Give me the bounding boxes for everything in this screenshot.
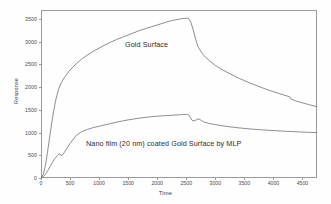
annotation-nano-film: Nano film (20 nm) coated Gold Surface by… (86, 139, 241, 148)
y-tick-mark (39, 87, 41, 88)
x-tick-label: 4000 (268, 180, 280, 186)
y-tick-mark (39, 155, 41, 156)
x-tick-mark (302, 178, 303, 180)
x-tick-label: 3000 (210, 180, 222, 186)
y-tick-mark (39, 110, 41, 111)
x-tick-label: 0 (40, 180, 43, 186)
y-tick-mark (39, 42, 41, 43)
x-tick-mark (215, 178, 216, 180)
x-tick-mark (273, 178, 274, 180)
x-tick-mark (186, 178, 187, 180)
y-axis-title: Response (13, 78, 23, 104)
x-tick-label: 500 (66, 180, 75, 186)
x-tick-mark (244, 178, 245, 180)
annotation-gold-surface: Gold Surface (125, 40, 168, 49)
x-tick-mark (70, 178, 71, 180)
x-tick-mark (157, 178, 158, 180)
x-tick-label: 4500 (297, 180, 309, 186)
x-tick-label: 2000 (151, 180, 163, 186)
x-tick-label: 1000 (93, 180, 105, 186)
x-tick-mark (41, 178, 42, 180)
y-tick-mark (39, 64, 41, 65)
figure-container: 0500100015002000250030003500 05001000150… (0, 0, 331, 204)
x-tick-label: 3500 (239, 180, 251, 186)
x-axis-title: Time (0, 190, 331, 196)
x-tick-mark (128, 178, 129, 180)
x-tick-mark (99, 178, 100, 180)
x-axis-tick-labels: 050010001500200025003000350040004500 (0, 0, 331, 204)
y-tick-mark (39, 19, 41, 20)
x-tick-label: 1500 (122, 180, 134, 186)
x-tick-label: 2500 (180, 180, 192, 186)
y-tick-mark (39, 133, 41, 134)
